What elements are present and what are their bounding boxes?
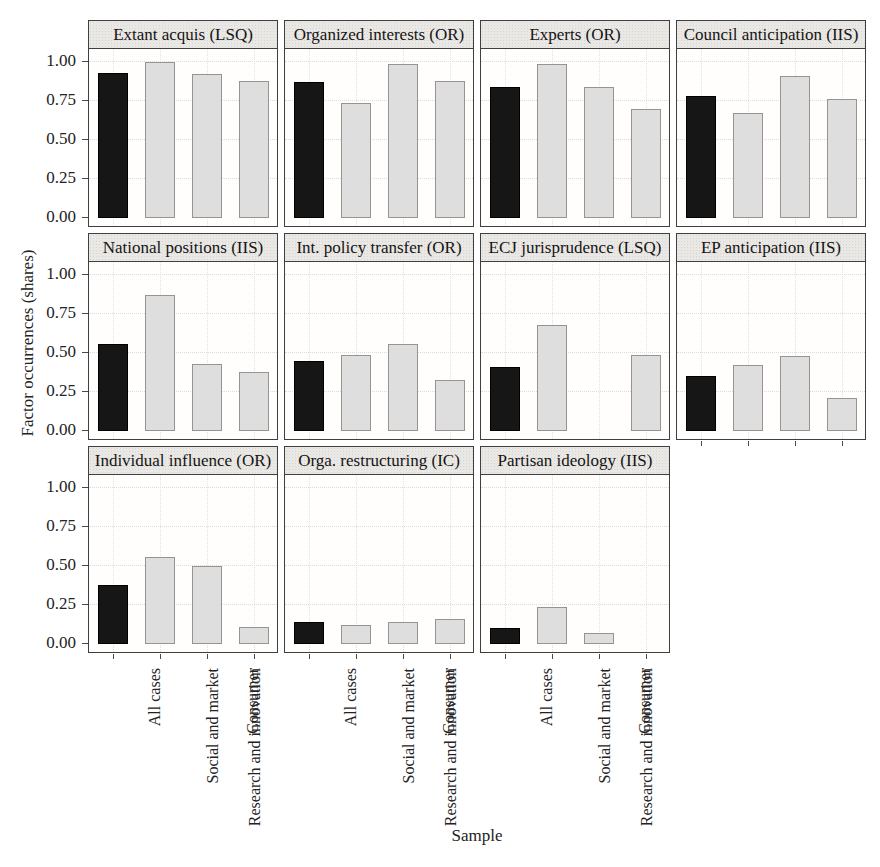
h-gridline [285,274,473,275]
panel-extant-acquis-lsq: Extant acquis (LSQ) [88,20,278,227]
bar-all-cases [98,585,128,644]
x-label-column: All casesSocial and marketResearch and i… [88,659,278,831]
h-gridline [285,526,473,527]
panel-grid: 1.000.750.500.250.00Extant acquis (LSQ)O… [0,20,872,831]
bar-research-and-innovation [192,566,222,644]
bar-all-cases [294,82,324,218]
h-gridline [677,313,865,314]
y-axis-gutter: 1.000.750.500.250.00 [0,446,88,653]
bar-research-and-innovation [584,633,614,644]
bar-research-and-innovation [780,76,810,218]
y-tick-label: 1.00 [46,477,76,497]
y-tick-label: 0.50 [46,129,76,149]
h-gridline [89,565,277,566]
x-tick-mark [701,441,702,446]
h-gridline [481,565,669,566]
v-gridline [599,475,600,652]
h-gridline [89,313,277,314]
bar-all-cases [686,376,716,431]
h-gridline [677,61,865,62]
panel-plot-area [677,49,865,226]
v-gridline [254,475,255,652]
bar-social-and-market [341,625,371,644]
panel-row: 1.000.750.500.250.00Individual influence… [0,446,872,653]
x-tick-label: Consumer [636,668,654,734]
x-tick-mark [842,441,843,446]
h-gridline [89,61,277,62]
panel-title: Extant acquis (LSQ) [89,21,277,49]
panel-plot-area [285,49,473,226]
panel-plot-area [481,49,669,226]
x-label-anchor: Consumer [284,668,440,686]
bar-social-and-market [341,355,371,431]
y-axis-gutter: 1.000.750.500.250.00 [0,20,88,227]
h-gridline [89,487,277,488]
panel-plot-area [481,475,669,652]
h-gridline [285,565,473,566]
x-label-column: All casesSocial and marketResearch and i… [284,659,474,831]
h-gridline [285,352,473,353]
bar-all-cases [98,344,128,431]
y-tick-label: 0.25 [46,594,76,614]
bar-all-cases [98,73,128,218]
h-gridline [285,313,473,314]
y-tick-label: 0.00 [46,633,76,653]
x-label-anchor: Consumer [88,668,244,686]
x-tick-mark [748,441,749,446]
bar-social-and-market [537,607,567,644]
bar-research-and-innovation [584,87,614,218]
bar-all-cases [686,96,716,218]
y-tick-label: 1.00 [46,264,76,284]
h-gridline [481,313,669,314]
panel-title: Int. policy transfer (OR) [285,234,473,262]
panel-title: Experts (OR) [481,21,669,49]
panel-title: Orga. restructuring (IC) [285,447,473,475]
h-gridline [89,274,277,275]
y-tick-label: 0.00 [46,420,76,440]
h-gridline [677,274,865,275]
bar-research-and-innovation [192,364,222,431]
h-gridline [481,604,669,605]
x-axis-labels: All casesSocial and marketResearch and i… [0,659,872,831]
bar-research-and-innovation [192,74,222,218]
panel-experts-or: Experts (OR) [480,20,670,227]
h-gridline [481,61,669,62]
panel-plot-area [285,475,473,652]
panel-row: 1.000.750.500.250.00Extant acquis (LSQ)O… [0,20,872,227]
y-tick-label: 0.50 [46,342,76,362]
bar-research-and-innovation [388,622,418,644]
bar-all-cases [490,87,520,218]
bar-consumer [239,627,269,644]
panel-title: Partisan ideology (IIS) [481,447,669,475]
x-label-anchor: Consumer [480,668,636,686]
bar-consumer [239,372,269,431]
bar-all-cases [294,361,324,431]
bar-consumer [827,398,857,431]
bar-consumer [631,355,661,431]
panel-title: Organized interests (OR) [285,21,473,49]
y-tick-label: 0.75 [46,303,76,323]
bar-social-and-market [733,365,763,431]
panel-plot-area [677,262,865,439]
bar-research-and-innovation [388,64,418,218]
h-gridline [285,487,473,488]
x-axis-title: Sample [452,826,503,846]
y-tick-label: 0.75 [46,516,76,536]
y-tick-label: 0.00 [46,207,76,227]
bar-social-and-market [537,64,567,218]
panel-plot-area [89,475,277,652]
panel-title: National positions (IIS) [89,234,277,262]
panel-partisan-ideology-iis: Partisan ideology (IIS) [480,446,670,653]
panel-int-policy-transfer-or: Int. policy transfer (OR) [284,233,474,440]
h-gridline [285,61,473,62]
panel-council-anticipation-iis: Council anticipation (IIS) [676,20,866,227]
y-tick-label: 0.25 [46,168,76,188]
h-gridline [481,274,669,275]
y-tick-label: 0.25 [46,381,76,401]
panel-plot-area [89,49,277,226]
h-gridline [677,352,865,353]
bar-consumer [435,619,465,644]
bar-research-and-innovation [388,344,418,431]
h-gridline [481,487,669,488]
h-gridline [481,352,669,353]
